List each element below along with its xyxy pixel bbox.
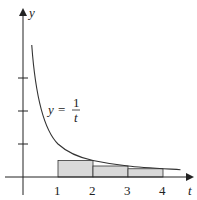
figure: y t y = 1 t 1 2 3 4 <box>0 0 197 200</box>
svg-text:4: 4 <box>159 183 166 198</box>
svg-text:=: = <box>58 102 65 117</box>
x-axis-label: t <box>188 183 192 198</box>
rectangle-2-3 <box>93 166 128 177</box>
rectangle-1-2 <box>58 161 93 178</box>
svg-text:3: 3 <box>124 183 131 198</box>
x-tick-labels: 1 2 3 4 <box>54 183 166 198</box>
riemann-rectangles <box>58 161 163 178</box>
svg-text:1: 1 <box>73 95 80 110</box>
rectangle-3-4 <box>128 169 163 177</box>
svg-text:2: 2 <box>89 183 96 198</box>
svg-text:t: t <box>74 110 78 125</box>
svg-text:1: 1 <box>54 183 61 198</box>
curve-1-over-t <box>32 45 181 170</box>
function-label: y = 1 t <box>46 95 80 125</box>
y-axis-label: y <box>27 5 35 20</box>
svg-text:y: y <box>46 102 54 117</box>
